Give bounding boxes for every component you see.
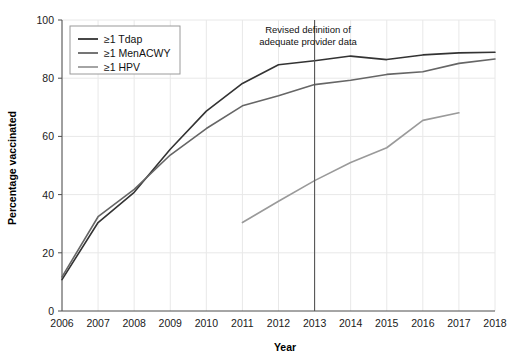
legend-label: ≥1 HPV xyxy=(104,61,140,73)
y-tick-label: 20 xyxy=(42,247,54,259)
y-tick-label: 60 xyxy=(42,130,54,142)
x-tick-label: 2013 xyxy=(303,317,327,329)
legend-label: ≥1 Tdap xyxy=(104,33,142,45)
legend-label: ≥1 MenACWY xyxy=(104,47,170,59)
x-tick-label: 2011 xyxy=(231,317,254,329)
x-tick-label: 2018 xyxy=(483,317,507,329)
y-tick-label: 80 xyxy=(42,72,54,84)
x-tick-label: 2009 xyxy=(159,317,183,329)
y-tick-label: 0 xyxy=(48,305,54,317)
x-tick-label: 2014 xyxy=(339,317,363,329)
x-tick-label: 2017 xyxy=(447,317,471,329)
annotation-line-1: Revised definition of xyxy=(265,24,351,35)
x-tick-label: 2007 xyxy=(86,317,110,329)
x-tick-label: 2006 xyxy=(50,317,74,329)
x-tick-label: 2010 xyxy=(195,317,219,329)
x-axis-title: Year xyxy=(274,341,296,353)
annotation-line-2: adequate provider data xyxy=(259,36,357,47)
y-tick-label: 40 xyxy=(42,189,54,201)
x-tick-label: 2015 xyxy=(375,317,399,329)
y-axis-title: Percentage vaccinated xyxy=(6,111,18,225)
x-tick-label: 2012 xyxy=(267,317,291,329)
x-tick-label: 2016 xyxy=(411,317,435,329)
chart-canvas: 2006200720082009201020112012201320142015… xyxy=(0,0,508,358)
x-tick-label: 2008 xyxy=(122,317,146,329)
vaccination-coverage-chart: 2006200720082009201020112012201320142015… xyxy=(0,0,508,358)
y-tick-label: 100 xyxy=(36,14,54,26)
chart-legend: ≥1 Tdap≥1 MenACWY≥1 HPV xyxy=(70,26,180,74)
